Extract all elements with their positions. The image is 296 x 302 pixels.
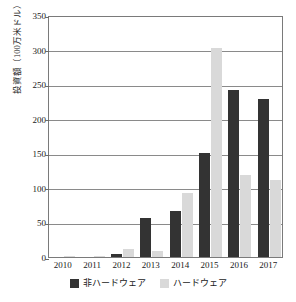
bar-group-2010 xyxy=(49,17,78,257)
x-tick-label-2011: 2011 xyxy=(77,260,106,271)
bar-groups xyxy=(49,17,282,257)
bar-2017-hardware xyxy=(270,180,281,257)
bar-group-2014 xyxy=(167,17,196,257)
x-tick-label-2015: 2015 xyxy=(195,260,224,271)
bar-2011-hardware xyxy=(94,256,105,257)
x-tick-label-2017: 2017 xyxy=(254,260,283,271)
bar-2017-non-hardware xyxy=(258,99,269,257)
bar-group-2012 xyxy=(108,17,137,257)
bar-2015-hardware xyxy=(211,48,222,257)
legend-swatch-icon xyxy=(70,279,79,288)
bar-2016-hardware xyxy=(240,175,251,257)
bar-2013-non-hardware xyxy=(140,218,151,257)
legend-item-hardware[interactable]: ハードウェア xyxy=(160,278,227,288)
bar-2014-non-hardware xyxy=(170,211,181,257)
bar-2010-hardware xyxy=(64,256,75,257)
investment-bar-chart: 投資額（100万米ドル） 050100150200250300350 20102… xyxy=(0,0,296,302)
y-tick-label-100: 100 xyxy=(22,184,46,193)
chart-legend: 非ハードウェアハードウェア xyxy=(0,278,296,288)
y-tick-label-150: 150 xyxy=(22,150,46,159)
x-axis-tick-labels: 20102011201220132014201520162017 xyxy=(48,260,283,274)
bar-group-2016 xyxy=(225,17,254,257)
bar-2014-hardware xyxy=(182,193,193,257)
y-tick-label-0: 0 xyxy=(22,254,46,263)
bar-group-2017 xyxy=(255,17,284,257)
x-tick-label-2012: 2012 xyxy=(107,260,136,271)
x-tick-label-2016: 2016 xyxy=(224,260,253,271)
bar-2013-hardware xyxy=(152,251,163,257)
x-tick-label-2010: 2010 xyxy=(48,260,77,271)
bar-2012-non-hardware xyxy=(111,254,122,257)
bar-2016-non-hardware xyxy=(228,90,239,257)
legend-swatch-icon xyxy=(160,279,169,288)
plot-area xyxy=(48,16,283,258)
legend-label: 非ハードウェア xyxy=(83,278,146,288)
x-tick-label-2013: 2013 xyxy=(136,260,165,271)
x-tick-label-2014: 2014 xyxy=(166,260,195,271)
bar-group-2015 xyxy=(196,17,225,257)
legend-label: ハードウェア xyxy=(173,278,227,288)
y-tick-label-350: 350 xyxy=(22,12,46,21)
legend-item-non-hardware[interactable]: 非ハードウェア xyxy=(70,278,146,288)
y-tick-label-250: 250 xyxy=(22,81,46,90)
bar-group-2013 xyxy=(137,17,166,257)
y-tick-label-50: 50 xyxy=(22,219,46,228)
bar-2012-hardware xyxy=(123,249,134,257)
bar-2015-non-hardware xyxy=(199,153,210,257)
y-tick-label-200: 200 xyxy=(22,115,46,124)
y-tick-label-300: 300 xyxy=(22,46,46,55)
bar-group-2011 xyxy=(78,17,107,257)
y-axis-tick-labels: 050100150200250300350 xyxy=(22,16,46,258)
